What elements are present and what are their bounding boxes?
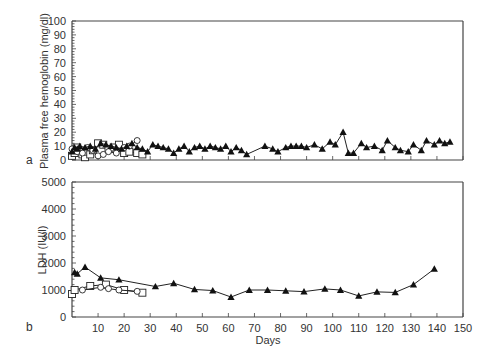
y-tick-label: 4000: [42, 203, 66, 215]
triangle-marker-icon: [180, 143, 187, 149]
panel-b-label: b: [26, 320, 33, 334]
x-tick-label: 10: [92, 322, 104, 334]
triangle-marker-icon: [321, 285, 328, 291]
x-tick-label: 100: [323, 322, 341, 334]
circle-marker-icon: [105, 149, 111, 155]
x-tick-label: 60: [222, 322, 234, 334]
triangle-marker-icon: [446, 138, 453, 144]
x-tick-label: 120: [376, 322, 394, 334]
circle-marker-icon: [79, 287, 85, 293]
triangle-marker-icon: [222, 143, 229, 149]
triangle-marker-icon: [379, 147, 386, 153]
x-tick-label: 20: [118, 322, 130, 334]
y-tick-label: 10: [54, 140, 66, 152]
x-tick-label: 70: [248, 322, 260, 334]
panel-a-plasma-hemoglobin-chart: 0102030405060708090100: [48, 15, 463, 166]
x-tick-label: 90: [300, 322, 312, 334]
x-tick-label: 50: [196, 322, 208, 334]
triangle-marker-icon: [410, 281, 417, 287]
series-line: [75, 267, 435, 297]
y-tick-label: 40: [54, 98, 66, 110]
y-tick-label: 20: [54, 126, 66, 138]
circle-marker-icon: [105, 286, 111, 292]
triangle-marker-icon: [311, 141, 318, 147]
triangle-marker-icon: [431, 265, 438, 271]
circle-marker-icon: [134, 288, 140, 294]
y-tick-label: 70: [54, 57, 66, 69]
panel-b-ldh-chart: 0100020003000400050001020304050607080901…: [42, 176, 473, 334]
y-tick-label: 0: [60, 311, 66, 323]
triangle-marker-icon: [418, 147, 425, 153]
y-axis-title-b: LDH (IU/l): [36, 226, 48, 275]
triangle-marker-icon: [97, 274, 104, 280]
y-tick-label: 30: [54, 112, 66, 124]
triangle-marker-icon: [170, 280, 177, 286]
triangle-marker-icon: [81, 263, 88, 269]
panel-a-label: a: [26, 153, 33, 167]
x-tick-label: 30: [144, 322, 156, 334]
triangle-marker-icon: [261, 143, 268, 149]
x-tick-label: 140: [428, 322, 446, 334]
x-tick-label: 40: [170, 322, 182, 334]
y-tick-label: 80: [54, 43, 66, 55]
series-triangle: [71, 263, 438, 299]
triangle-marker-icon: [326, 138, 333, 144]
square-marker-icon: [71, 287, 78, 294]
triangle-marker-icon: [358, 140, 365, 146]
triangle-marker-icon: [371, 143, 378, 149]
triangle-marker-icon: [384, 137, 391, 143]
triangle-marker-icon: [269, 145, 276, 151]
figure: 0102030405060708090100 01000200030004000…: [0, 0, 488, 362]
circle-marker-icon: [116, 287, 122, 293]
y-tick-label: 100: [48, 15, 66, 27]
triangle-marker-icon: [233, 144, 240, 150]
y-axis-title-a: Plasma free hemoglobin (mg/dl): [38, 13, 50, 169]
triangle-marker-icon: [207, 143, 214, 149]
triangle-marker-icon: [410, 141, 417, 147]
triangle-marker-icon: [196, 143, 203, 149]
triangle-marker-icon: [436, 137, 443, 143]
triangle-marker-icon: [149, 141, 156, 147]
y-tick-label: 90: [54, 29, 66, 41]
x-tick-label: 110: [350, 322, 368, 334]
x-tick-label: 150: [454, 322, 472, 334]
circle-marker-icon: [134, 138, 140, 144]
triangle-marker-icon: [423, 137, 430, 143]
triangle-marker-icon: [339, 129, 346, 135]
triangle-marker-icon: [227, 293, 234, 299]
y-tick-label: 5000: [42, 176, 66, 188]
y-tick-label: 1000: [42, 284, 66, 296]
x-axis-title-b: Days: [255, 334, 281, 346]
y-tick-label: 60: [54, 71, 66, 83]
x-tick-label: 130: [402, 322, 420, 334]
circle-marker-icon: [98, 284, 104, 290]
x-tick-label: 80: [274, 322, 286, 334]
y-tick-label: 0: [60, 154, 66, 166]
y-tick-label: 50: [54, 85, 66, 97]
